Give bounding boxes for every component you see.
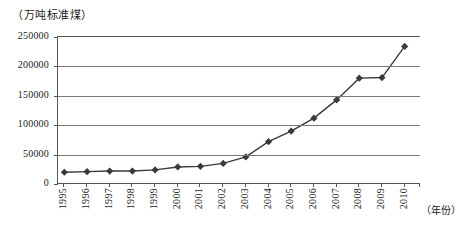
x-tick-label: 2006 <box>308 188 318 209</box>
x-axis-tick <box>245 183 246 187</box>
x-tick-label: 2004 <box>263 188 273 209</box>
data-point-marker <box>220 160 227 167</box>
x-axis-tick <box>404 183 405 187</box>
plot-area <box>57 36 420 183</box>
y-axis-tick <box>54 96 58 97</box>
data-point-marker <box>174 163 181 170</box>
x-axis-tick <box>199 183 200 187</box>
x-tick-label: 1995 <box>58 188 68 209</box>
x-tick-label: 2000 <box>172 188 182 209</box>
x-axis-tick <box>154 183 155 187</box>
x-axis-title: （年份） <box>421 205 460 216</box>
data-point-marker <box>129 167 136 174</box>
y-axis-tick <box>54 125 58 126</box>
y-axis-tick <box>54 66 58 67</box>
series-polyline <box>64 46 404 172</box>
x-axis-tick <box>268 183 269 187</box>
x-axis-tick <box>419 183 420 187</box>
y-tick-label: 100000 <box>18 119 49 129</box>
y-axis-tick <box>54 155 58 156</box>
energy-consumption-line-chart: （万吨标准煤） 0 50000 100000 150000 200000 250… <box>0 0 460 239</box>
data-point-marker <box>151 166 158 173</box>
x-axis-tick <box>336 183 337 187</box>
y-tick-label: 50000 <box>23 149 49 159</box>
x-axis-tick <box>131 183 132 187</box>
gridline <box>58 96 420 97</box>
data-point-marker <box>83 168 90 175</box>
y-axis-unit-label: （万吨标准煤） <box>12 9 93 22</box>
x-axis-tick <box>109 183 110 187</box>
x-axis-tick-labels: 1995199619971998199920002001200220032004… <box>57 188 437 234</box>
x-tick-label: 2001 <box>194 188 204 209</box>
x-tick-label: 2005 <box>285 188 295 209</box>
data-point-marker <box>61 169 68 176</box>
x-axis-tick <box>290 183 291 187</box>
x-axis-tick <box>358 183 359 187</box>
x-tick-label: 2008 <box>353 188 363 209</box>
x-tick-label: 2002 <box>217 188 227 209</box>
y-tick-label: 0 <box>44 178 49 188</box>
x-tick-label: 1996 <box>81 188 91 209</box>
data-series-line <box>58 37 421 184</box>
x-tick-label: 1999 <box>149 188 159 209</box>
y-axis-tick-labels: 0 50000 100000 150000 200000 250000 <box>0 36 53 183</box>
data-point-marker <box>106 167 113 174</box>
x-axis-tick <box>63 183 64 187</box>
x-axis-tick <box>86 183 87 187</box>
gridline <box>58 66 420 67</box>
x-tick-label: 1998 <box>126 188 136 209</box>
x-axis-tick <box>381 183 382 187</box>
x-tick-label: 2007 <box>331 188 341 209</box>
y-tick-label: 200000 <box>18 60 49 70</box>
x-tick-label: 1997 <box>104 188 114 209</box>
y-tick-label: 250000 <box>18 31 49 41</box>
y-axis-tick <box>54 37 58 38</box>
x-tick-label: 2003 <box>240 188 250 209</box>
x-tick-label: 2010 <box>399 188 409 209</box>
x-axis-tick <box>313 183 314 187</box>
x-axis-tick <box>222 183 223 187</box>
gridline <box>58 125 420 126</box>
x-axis-tick <box>177 183 178 187</box>
gridline <box>58 155 420 156</box>
x-tick-label: 2009 <box>376 188 386 209</box>
y-tick-label: 150000 <box>18 90 49 100</box>
data-point-marker <box>288 127 295 134</box>
data-point-marker <box>197 163 204 170</box>
